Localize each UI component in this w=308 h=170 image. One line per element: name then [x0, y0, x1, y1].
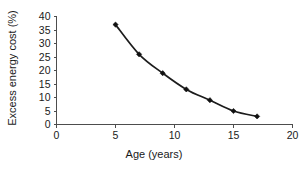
series-line-excess-energy-cost — [116, 25, 258, 117]
x-tick-label: 15 — [228, 129, 240, 141]
data-point-marker — [207, 98, 212, 103]
data-point-marker — [231, 108, 236, 113]
x-tick-label: 20 — [287, 129, 299, 141]
y-tick-label: 15 — [39, 78, 51, 90]
y-tick-label: 35 — [39, 24, 51, 36]
y-tick-label: 40 — [39, 10, 51, 22]
y-tick-label: 0 — [45, 118, 51, 130]
x-tick-label: 5 — [113, 129, 119, 141]
data-point-marker — [255, 114, 260, 119]
series-markers — [113, 22, 260, 119]
x-tick-label: 10 — [169, 129, 181, 141]
chart-figure: Excess energy cost (%) Age (years) 05101… — [0, 0, 308, 170]
y-tick-label: 25 — [39, 51, 51, 63]
y-axis-ticks: 0510152025303540 — [39, 10, 57, 130]
x-tick-label: 0 — [54, 129, 60, 141]
y-tick-label: 20 — [39, 64, 51, 76]
plot-area: 0510152025303540 05101520 — [0, 0, 308, 170]
y-tick-label: 30 — [39, 37, 51, 49]
x-axis-ticks: 05101520 — [54, 125, 299, 141]
y-tick-label: 10 — [39, 91, 51, 103]
y-tick-label: 5 — [45, 105, 51, 117]
